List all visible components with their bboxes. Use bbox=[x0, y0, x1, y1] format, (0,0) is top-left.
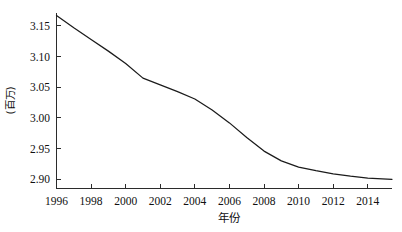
x-tick-label: 1998 bbox=[80, 195, 103, 207]
x-tick-label: 2004 bbox=[183, 195, 206, 207]
x-tick-label: 2012 bbox=[322, 195, 345, 207]
y-tick-labels: 2.902.953.003.053.103.15 bbox=[30, 20, 50, 185]
x-tick-label: 2006 bbox=[218, 195, 241, 207]
data-series-line bbox=[57, 16, 393, 180]
y-tick-label: 3.05 bbox=[30, 81, 50, 93]
chart-canvas: 2.902.953.003.053.103.15 199619982000200… bbox=[0, 0, 402, 232]
x-tick-label: 2000 bbox=[114, 195, 137, 207]
y-axis-label-text: (百万) bbox=[4, 86, 16, 114]
y-tick-label: 3.00 bbox=[30, 112, 50, 124]
y-tick-label: 2.95 bbox=[30, 143, 50, 155]
y-tick-label: 2.90 bbox=[30, 173, 50, 185]
x-tick-label: 2008 bbox=[253, 195, 276, 207]
y-axis-label: (百万) bbox=[4, 86, 16, 114]
x-axis-label: 年份 bbox=[218, 211, 241, 225]
x-tick-labels: 1996199820002002200420062008201020122014 bbox=[45, 195, 380, 207]
x-tick-label: 1996 bbox=[45, 195, 68, 207]
x-tick-marks bbox=[57, 184, 368, 189]
line-chart-figure: 2.902.953.003.053.103.15 199619982000200… bbox=[0, 0, 402, 232]
y-tick-label: 3.15 bbox=[30, 20, 50, 32]
x-tick-label: 2010 bbox=[287, 195, 310, 207]
y-tick-marks bbox=[57, 26, 62, 179]
y-tick-label: 3.10 bbox=[30, 51, 50, 63]
x-tick-label: 2014 bbox=[356, 195, 379, 207]
axis-spines bbox=[57, 13, 393, 189]
x-tick-label: 2002 bbox=[149, 195, 172, 207]
